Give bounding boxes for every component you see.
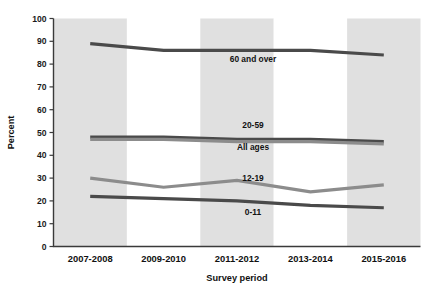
x-tick-label-2013-2014: 2013-2014 bbox=[288, 253, 334, 264]
y-tick-label-30: 30 bbox=[37, 173, 47, 183]
x-axis-title: Survey period bbox=[206, 273, 267, 283]
x-tick-label-2007-2008: 2007-2008 bbox=[68, 253, 113, 264]
y-tick-label-40: 40 bbox=[37, 150, 47, 160]
series-label-60-and-over: 60 and over bbox=[230, 54, 277, 64]
x-tick-label-2009-2010: 2009-2010 bbox=[141, 253, 186, 264]
y-tick-label-50: 50 bbox=[37, 128, 47, 138]
y-tick-label-10: 10 bbox=[37, 219, 47, 229]
y-tick-label-60: 60 bbox=[37, 105, 47, 115]
line-chart: 1009080706050403020100Percent2007-200820… bbox=[0, 0, 442, 297]
series-label-all-ages: All ages bbox=[237, 142, 269, 152]
y-tick-label-100: 100 bbox=[32, 14, 47, 24]
y-tick-label-80: 80 bbox=[37, 59, 47, 69]
chart-canvas: 1009080706050403020100Percent2007-200820… bbox=[0, 0, 442, 297]
series-label-0-11: 0-11 bbox=[245, 207, 262, 217]
x-tick-label-2011-2012: 2011-2012 bbox=[215, 253, 259, 264]
series-label-20-59: 20-59 bbox=[242, 120, 264, 130]
y-tick-label-70: 70 bbox=[37, 82, 47, 92]
y-tick-label-0: 0 bbox=[42, 242, 47, 252]
y-axis-title: Percent bbox=[6, 116, 16, 150]
background-band-2007-2008 bbox=[54, 19, 127, 247]
x-tick-label-2015-2016: 2015-2016 bbox=[361, 253, 406, 264]
background-band-2009-2010 bbox=[127, 19, 200, 247]
y-tick-label-90: 90 bbox=[37, 36, 47, 46]
y-tick-label-20: 20 bbox=[37, 196, 47, 206]
background-band-2011-2012 bbox=[200, 19, 273, 247]
series-label-12-19: 12-19 bbox=[242, 173, 264, 183]
